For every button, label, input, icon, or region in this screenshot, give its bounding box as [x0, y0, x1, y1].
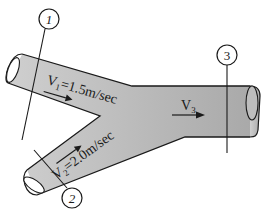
pipe-body: [8, 54, 252, 195]
section-2-label: 2: [69, 191, 76, 206]
v3-symbol: V: [181, 98, 191, 113]
v3-subscript: 3: [191, 105, 196, 115]
pipe-junction-diagram: 1 3 2 V1=1.5m/sec V2=2.0m/s: [0, 0, 261, 218]
section-1-label: 1: [46, 12, 53, 27]
section-3-label: 3: [224, 48, 231, 63]
